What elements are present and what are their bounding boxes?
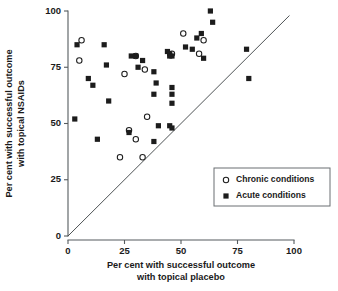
y-tick-label-50: 50 bbox=[50, 117, 61, 128]
y-tick-label-75: 75 bbox=[50, 61, 61, 72]
data-point-acute bbox=[133, 53, 138, 58]
data-point-acute bbox=[208, 8, 213, 13]
series-acute-conditions bbox=[72, 8, 251, 144]
data-point-acute bbox=[151, 69, 156, 74]
data-point-chronic bbox=[142, 67, 147, 72]
data-point-acute bbox=[102, 42, 107, 47]
data-point-acute bbox=[154, 80, 159, 85]
data-point-acute bbox=[190, 47, 195, 52]
data-point-acute bbox=[86, 76, 91, 81]
data-point-acute bbox=[135, 65, 140, 70]
x-tick-label-25: 25 bbox=[119, 245, 130, 256]
data-point-acute bbox=[169, 125, 174, 130]
data-points bbox=[72, 8, 251, 160]
y-tick-label-100: 100 bbox=[45, 5, 61, 16]
x-axis-title-line1: Per cent with successful outcome bbox=[107, 260, 255, 270]
data-point-acute bbox=[169, 85, 174, 90]
x-axis-title-line2: with topical placebo bbox=[136, 272, 225, 282]
data-point-acute bbox=[183, 44, 188, 49]
data-point-acute bbox=[74, 42, 79, 47]
scatter-plot-figure: 02550751000255075100 Chronic conditionsA… bbox=[0, 0, 338, 291]
data-point-chronic bbox=[196, 51, 201, 56]
data-point-chronic bbox=[117, 155, 122, 160]
data-point-acute bbox=[104, 62, 109, 67]
data-point-acute bbox=[201, 56, 206, 61]
y-tick-label-0: 0 bbox=[56, 230, 61, 241]
data-point-chronic bbox=[144, 114, 149, 119]
data-point-chronic bbox=[77, 58, 82, 63]
data-point-chronic bbox=[201, 38, 206, 43]
y-axis-title-line1: Per cent with successful outcome bbox=[4, 49, 14, 197]
data-point-acute bbox=[151, 139, 156, 144]
data-point-chronic bbox=[122, 71, 127, 76]
data-point-chronic bbox=[133, 137, 138, 142]
data-point-acute bbox=[106, 98, 111, 103]
legend-marker-acute bbox=[223, 193, 228, 198]
data-point-acute bbox=[95, 137, 100, 142]
x-tick-label-100: 100 bbox=[286, 245, 302, 256]
data-point-chronic bbox=[181, 31, 186, 36]
x-tick-label-0: 0 bbox=[65, 245, 70, 256]
scatter-plot-canvas: 02550751000255075100 Chronic conditionsA… bbox=[0, 0, 338, 291]
data-point-acute bbox=[72, 116, 77, 121]
y-tick-label-25: 25 bbox=[50, 173, 61, 184]
y-axis-title-line2: with topical NSAIDs bbox=[16, 80, 26, 168]
data-point-chronic bbox=[79, 38, 84, 43]
x-tick-label-75: 75 bbox=[232, 245, 243, 256]
x-tick-label-50: 50 bbox=[176, 245, 187, 256]
data-point-chronic bbox=[140, 155, 145, 160]
data-point-acute bbox=[169, 101, 174, 106]
data-point-acute bbox=[151, 92, 156, 97]
data-point-acute bbox=[129, 53, 134, 58]
data-point-acute bbox=[126, 130, 131, 135]
data-point-acute bbox=[246, 76, 251, 81]
data-point-acute bbox=[194, 35, 199, 40]
legend-marker-chronic bbox=[223, 177, 228, 182]
legend-label-1: Acute conditions bbox=[236, 190, 306, 200]
data-point-acute bbox=[210, 20, 215, 25]
data-point-acute bbox=[199, 31, 204, 36]
data-point-acute bbox=[244, 47, 249, 52]
data-point-acute bbox=[90, 83, 95, 88]
data-point-acute bbox=[169, 53, 174, 58]
chart-legend: Chronic conditionsAcute conditions bbox=[214, 168, 330, 206]
data-point-acute bbox=[156, 123, 161, 128]
legend-label-0: Chronic conditions bbox=[236, 174, 315, 184]
data-point-acute bbox=[169, 92, 174, 97]
data-point-acute bbox=[140, 58, 145, 63]
